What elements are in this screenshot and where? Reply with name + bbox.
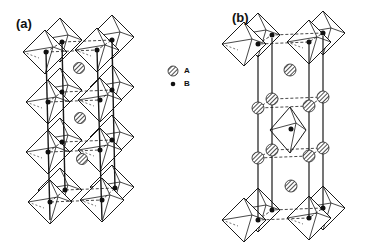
legend-b-label: B: [184, 79, 190, 88]
legend-a-symbol: [168, 66, 178, 76]
legend: [168, 66, 178, 86]
crystal-structure-diagram: [0, 0, 368, 251]
panel-b-structure: [222, 11, 345, 242]
panel-a-label: (a): [16, 16, 32, 31]
legend-b-symbol: [171, 82, 176, 87]
panel-a-structure: [23, 15, 134, 224]
legend-a-label: A: [184, 66, 190, 75]
panel-b-label: (b): [232, 10, 249, 25]
